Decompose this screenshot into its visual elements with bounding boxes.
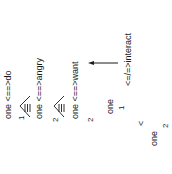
bracket-connector-2 bbox=[54, 96, 64, 117]
bracket-connector-1 bbox=[20, 96, 30, 117]
diagram-connectors bbox=[0, 0, 172, 174]
arrow-left-icon bbox=[88, 61, 118, 65]
